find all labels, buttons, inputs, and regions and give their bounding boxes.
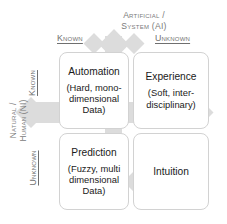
column-header-unknown: Unknown (155, 33, 190, 43)
row-header-unknown: Unknown (28, 135, 38, 201)
diagram-canvas: Artificial / System (AI) Known Unknown N… (0, 0, 227, 224)
quadrant-intuition[interactable]: Intuition (133, 133, 209, 210)
quadrant-automation-title: Automation (68, 66, 120, 78)
quadrant-automation[interactable]: Automation (Hard, mono- dimensional Data… (59, 52, 129, 129)
quadrant-prediction[interactable]: Prediction (Fuzzy, multi dimensional Dat… (59, 133, 129, 210)
left-axis-label: Natural / Human (NI) (8, 66, 29, 174)
row-header-known: Known (27, 50, 37, 116)
quadrant-experience-subtitle: (Soft, inter- disciplinary) (146, 87, 196, 109)
quadrant-prediction-title: Prediction (71, 147, 116, 159)
quadrant-intuition-title: Intuition (153, 166, 189, 178)
quadrant-experience-title: Experience (146, 71, 197, 83)
top-axis-label: Artificial / System (AI) (96, 10, 192, 31)
quadrant-experience[interactable]: Experience (Soft, inter- disciplinary) (133, 52, 209, 129)
quadrant-prediction-subtitle: (Fuzzy, multi dimensional Data) (68, 163, 120, 197)
column-header-known: Known (57, 33, 83, 43)
quadrant-automation-subtitle: (Hard, mono- dimensional Data) (66, 82, 121, 116)
